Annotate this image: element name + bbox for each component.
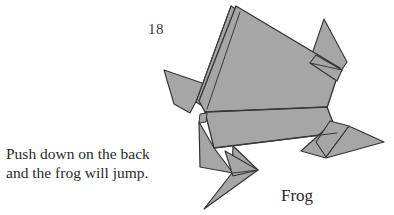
caption-line-2: and the frog will jump.	[6, 163, 150, 182]
origami-frog-illustration	[0, 0, 394, 215]
model-name-label: Frog	[281, 186, 313, 206]
caption-line-1: Push down on the back	[6, 144, 150, 163]
figure-caption: Push down on the back and the frog will …	[6, 144, 150, 182]
frog-body	[196, 6, 342, 112]
band-left-tab-shape	[199, 113, 207, 123]
left-arm-flap-shape	[164, 70, 205, 113]
illustration-page: 18	[0, 0, 394, 215]
